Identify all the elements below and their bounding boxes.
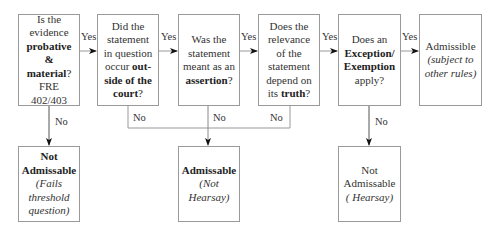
outcome-fails-threshold-box: NotAdmissable(Failsthresholdquestion): [18, 146, 80, 222]
box-text-line: probative: [26, 40, 71, 54]
box-text-line: & material?: [21, 53, 77, 80]
box-text-line: threshold: [28, 191, 69, 205]
no-label-4: No: [270, 112, 283, 123]
box-text-line: Admissable: [182, 164, 236, 178]
box-text-line: ( Hearsay): [346, 191, 393, 205]
yes-label-4: Yes: [322, 31, 337, 42]
box-text-line: its truth?: [268, 87, 311, 101]
box-text-line: assertion?: [185, 74, 232, 88]
box-text-line: Exemption: [344, 60, 395, 74]
box-text-line: Did the: [112, 20, 145, 34]
no-label-3: No: [213, 112, 226, 123]
box-text-line: in question: [104, 47, 153, 61]
box-text-line: question): [29, 204, 70, 218]
box-text-line: Does the: [270, 20, 309, 34]
outcome-admissible-box: Admissible(subject toother rules): [419, 14, 482, 106]
question-outside-court-box: Did thestatementin questionoccur out-sid…: [97, 14, 159, 106]
box-text-line: Not: [361, 164, 378, 178]
yes-label-3: Yes: [241, 31, 256, 42]
box-text-line: side of the: [104, 74, 152, 88]
box-text-line: 402/403: [31, 94, 67, 108]
box-text-line: (Not: [199, 177, 219, 191]
question-exception-box: Does anException/Exemptionapply?: [338, 14, 401, 106]
box-text-line: evidence: [29, 26, 68, 40]
question-probative-box: Is theevidenceprobative& material?FRE402…: [18, 14, 80, 106]
box-text-line: (Fails: [36, 177, 62, 191]
box-text-line: statement: [188, 47, 230, 61]
box-text-line: occur out-: [105, 60, 151, 74]
no-label-1: No: [55, 116, 68, 127]
box-text-line: Exception/: [344, 47, 394, 61]
no-label-5: No: [375, 116, 388, 127]
box-text-line: FRE: [39, 80, 59, 94]
question-assertion-box: Was thestatementmeant as anassertion?: [178, 14, 240, 106]
box-text-line: (subject to: [427, 53, 473, 67]
outcome-not-hearsay-box: Admissable(NotHearsay): [178, 146, 240, 222]
outcome-hearsay-box: NotAdmissable( Hearsay): [338, 146, 401, 222]
box-text-line: Does an: [352, 33, 388, 47]
box-text-line: meant as an: [183, 60, 235, 74]
box-text-line: Admissible: [425, 40, 475, 54]
box-text-line: relevance: [268, 33, 310, 47]
box-text-line: apply?: [355, 74, 384, 88]
no-label-2: No: [133, 112, 146, 123]
box-text-line: statement: [107, 33, 149, 47]
yes-label-2: Yes: [161, 31, 176, 42]
box-text-line: Admissable: [22, 164, 76, 178]
yes-label-5: Yes: [402, 31, 417, 42]
box-text-line: Hearsay): [189, 191, 230, 205]
box-text-line: Not: [40, 150, 57, 164]
box-text-line: Is the: [37, 13, 61, 27]
box-text-line: Was the: [192, 33, 227, 47]
box-text-line: Admissable: [344, 177, 396, 191]
box-text-line: of the: [276, 47, 301, 61]
yes-label-1: Yes: [81, 31, 96, 42]
box-text-line: other rules): [425, 67, 477, 81]
box-text-line: depend on: [266, 74, 312, 88]
box-text-line: statement: [268, 60, 310, 74]
box-text-line: court?: [113, 87, 143, 101]
question-truth-box: Does therelevanceof thestatementdepend o…: [258, 14, 320, 106]
